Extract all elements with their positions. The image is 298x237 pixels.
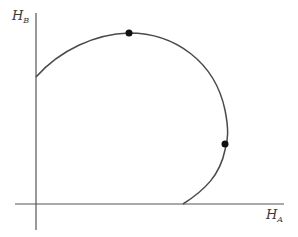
y-axis-label-main: H	[12, 8, 23, 23]
x-axis-label: HA	[266, 208, 283, 224]
max-hb-point	[126, 30, 133, 37]
y-axis-label: HB	[12, 9, 29, 25]
x-axis-label-sub: A	[277, 215, 283, 224]
x-axis-label-main: H	[266, 207, 277, 222]
diagram-canvas	[0, 0, 298, 237]
frontier-curve	[36, 33, 228, 204]
max-ha-point	[222, 141, 229, 148]
y-axis-label-sub: B	[23, 16, 29, 25]
